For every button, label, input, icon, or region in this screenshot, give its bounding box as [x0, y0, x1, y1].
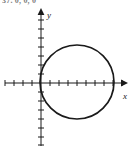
figure-root: 37. 0, 0, 0 — [0, 0, 136, 149]
coordinate-plane-plot: x y — [0, 0, 136, 149]
y-axis-arrowhead — [38, 8, 45, 15]
y-axis-label: y — [46, 10, 51, 20]
x-axis-label: x — [122, 91, 127, 101]
